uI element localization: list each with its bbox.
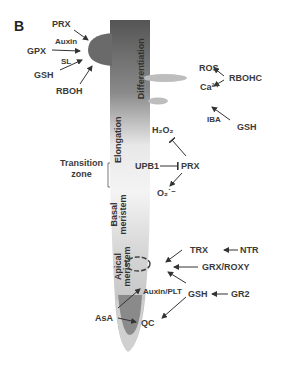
- lateral-root: [88, 33, 112, 66]
- label-grx-roxy: GRX/ROXY: [202, 263, 250, 272]
- label-prx-top: PRX: [52, 20, 71, 29]
- zone-transition: Transition zone: [60, 158, 103, 180]
- zone-apical-meristem: Apical meristem: [114, 240, 133, 292]
- label-gsh-right: GSH: [237, 123, 257, 132]
- label-sl: SL: [61, 58, 71, 66]
- zone-elongation: Elongation: [114, 108, 123, 172]
- transition-bracket: [108, 163, 110, 187]
- zone-basal-meristem: Basal meristem: [110, 189, 129, 239]
- label-prx-mid: PRX: [181, 162, 200, 171]
- zone-differentiation: Differentiation: [137, 29, 146, 109]
- label-trx: TRX: [190, 246, 208, 255]
- label-o2: O₂˙⁻: [157, 189, 176, 198]
- label-ntr: NTR: [240, 246, 259, 255]
- label-gsh-bottom: GSH: [188, 290, 208, 299]
- root-hair-small: [148, 98, 168, 105]
- label-rboh: RBOH: [56, 87, 83, 96]
- label-gpx: GPX: [27, 47, 46, 56]
- label-auxin: Auxin: [55, 38, 77, 46]
- label-rbohc: RBOHC: [229, 74, 262, 83]
- label-gr2: GR2: [231, 290, 250, 299]
- label-ros: ROS: [199, 64, 219, 73]
- label-asa: AsA: [95, 314, 113, 323]
- label-upb1: UPB1: [135, 162, 159, 171]
- label-auxin-plt: Auxin/PLT: [143, 288, 182, 296]
- root-hair: [143, 74, 187, 82]
- panel-label: B: [14, 18, 24, 34]
- label-qc: QC: [141, 319, 155, 328]
- label-gsh-left: GSH: [34, 71, 54, 80]
- label-h2o2: H₂O₂: [152, 126, 174, 135]
- label-ca: Ca²⁺: [200, 83, 220, 92]
- label-iba: IBA: [207, 116, 221, 124]
